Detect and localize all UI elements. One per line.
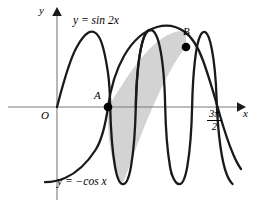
negative-cosine-curve-label: y = −cos x bbox=[57, 176, 107, 188]
x-tick-label-3pi-over-2: 3π 2 bbox=[207, 108, 222, 132]
point-b-marker bbox=[182, 43, 191, 52]
point-a-label: A bbox=[94, 90, 101, 101]
point-a-marker bbox=[104, 103, 113, 112]
fraction-3pi-over-2: 3π 2 bbox=[207, 108, 222, 132]
sine-curve-label: y = sin 2x bbox=[73, 15, 119, 27]
fraction-numerator: 3π bbox=[207, 108, 222, 119]
origin-label: O bbox=[41, 110, 49, 121]
point-b-label: B bbox=[183, 26, 190, 37]
x-axis-label: x bbox=[243, 108, 248, 119]
y-axis-label: y bbox=[39, 5, 44, 16]
fraction-denominator: 2 bbox=[207, 121, 222, 132]
